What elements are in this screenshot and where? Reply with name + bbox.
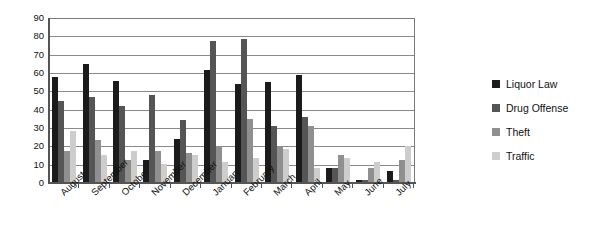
bar-group	[110, 19, 140, 182]
legend-item[interactable]: Theft	[492, 120, 587, 144]
bar-group	[323, 19, 353, 182]
x-axis-tick-labels: AugustSeptemberOctoberNovemberDecemberJa…	[49, 188, 414, 246]
bar-group	[262, 19, 292, 182]
bar-group	[49, 19, 79, 182]
legend-item[interactable]: Traffic	[492, 144, 587, 168]
y-tick-label: 50	[0, 86, 44, 96]
legend-swatch-icon	[492, 80, 500, 88]
bar	[405, 146, 411, 182]
y-tick-label: 60	[0, 68, 44, 78]
x-tick-label: May	[323, 188, 353, 246]
bar-group	[171, 19, 201, 182]
x-tick-label: December	[171, 188, 201, 246]
y-tick-label: 70	[0, 50, 44, 60]
legend-label: Traffic	[506, 150, 535, 162]
legend-label: Theft	[506, 126, 530, 138]
bar-group	[292, 19, 322, 182]
y-tick-label: 80	[0, 31, 44, 41]
x-tick-label: January	[201, 188, 231, 246]
y-tick-label: 0	[0, 178, 44, 188]
x-tick-label: October	[110, 188, 140, 246]
y-tick-label: 10	[0, 160, 44, 170]
x-tick-label: April	[292, 188, 322, 246]
bar-group	[353, 19, 383, 182]
legend-label: Drug Offense	[506, 102, 568, 114]
chart-legend: Liquor LawDrug OffenseTheftTraffic	[492, 72, 587, 168]
x-tick-label: November	[140, 188, 170, 246]
y-tick-label: 20	[0, 141, 44, 151]
bar-groups	[49, 19, 414, 182]
bar-group	[140, 19, 170, 182]
bar-group	[232, 19, 262, 182]
bar-group	[201, 19, 231, 182]
x-tick-label: August	[49, 188, 79, 246]
legend-item[interactable]: Liquor Law	[492, 72, 587, 96]
legend-swatch-icon	[492, 104, 500, 112]
x-tick-label: September	[79, 188, 109, 246]
y-tick-label: 90	[0, 13, 44, 23]
x-tick-label: February	[232, 188, 262, 246]
legend-swatch-icon	[492, 128, 500, 136]
legend-item[interactable]: Drug Offense	[492, 96, 587, 120]
y-axis-tick-labels: 9080706050403020100	[0, 0, 44, 248]
x-tick-label: March	[262, 188, 292, 246]
x-tick-label: July	[384, 188, 414, 246]
legend-label: Liquor Law	[506, 78, 557, 90]
y-tick-label: 30	[0, 123, 44, 133]
chart-container: 9080706050403020100 AugustSeptemberOctob…	[0, 0, 589, 248]
legend-swatch-icon	[492, 152, 500, 160]
x-tick-label: June	[353, 188, 383, 246]
y-tick-label: 40	[0, 105, 44, 115]
bar-group	[384, 19, 414, 182]
bar-group	[79, 19, 109, 182]
